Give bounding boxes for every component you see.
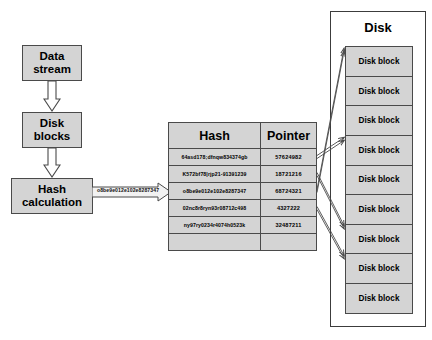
cell-hash: o8be9e012e102e8287347 (169, 183, 261, 200)
table-header-row: Hash Pointer (169, 123, 317, 149)
cell-pointer: 57624982 (261, 149, 317, 166)
hash-value-label: o8be9e012e102e8287347 (95, 187, 161, 193)
table-row-empty (169, 234, 317, 251)
node-data-stream-label: Data stream (23, 50, 81, 77)
disk-block: Disk block (345, 224, 413, 255)
cell-hash: ny97ry0234r4074h0523k (169, 217, 261, 234)
disk-block-label: Disk block (359, 205, 400, 214)
cell-pointer: 18721216 (261, 166, 317, 183)
table-row: ny97ry0234r4074h0523k 32487211 (169, 217, 317, 234)
diagram-canvas: Data stream Disk blocks Hash calculation… (0, 0, 432, 340)
node-disk-blocks-label: Disk blocks (23, 117, 81, 144)
table-row: o8be9e012e102e8287347 68724321 (169, 183, 317, 200)
cell-hash-empty (169, 234, 261, 251)
disk-block-label: Disk block (359, 294, 400, 303)
disk-block-label: Disk block (359, 57, 400, 66)
cell-hash: 64asd178;dfnqw834374gb (169, 149, 261, 166)
disk-block: Disk block (345, 283, 413, 314)
table-row: 64asd178;dfnqw834374gb 57624982 (169, 149, 317, 166)
disk-block: Disk block (345, 165, 413, 196)
disk-block-label: Disk block (359, 146, 400, 155)
disk-block-label: Disk block (359, 235, 400, 244)
cell-hash: 02nc8r8ryn93r08712c498 (169, 200, 261, 217)
disk-block-label: Disk block (359, 116, 400, 125)
node-hash-calculation: Hash calculation (11, 178, 93, 214)
node-data-stream: Data stream (22, 45, 82, 81)
node-disk-blocks: Disk blocks (22, 112, 82, 148)
cell-pointer: 4327222 (261, 200, 317, 217)
disk-block: Disk block (345, 253, 413, 284)
disk-block-stack: Disk block Disk block Disk block Disk bl… (345, 46, 413, 314)
disk-block-label: Disk block (359, 175, 400, 184)
column-header-pointer: Pointer (261, 123, 317, 149)
disk-panel: Disk Disk block Disk block Disk block Di… (330, 11, 426, 327)
disk-block: Disk block (345, 135, 413, 166)
disk-block: Disk block (345, 105, 413, 136)
cell-hash: K572bf78|rjp21-91391239 (169, 166, 261, 183)
column-header-hash: Hash (169, 123, 261, 149)
cell-pointer: 32487211 (261, 217, 317, 234)
disk-block: Disk block (345, 76, 413, 107)
disk-block: Disk block (345, 46, 413, 77)
disk-block: Disk block (345, 194, 413, 225)
disk-block-label: Disk block (359, 264, 400, 273)
cell-pointer-empty (261, 234, 317, 251)
node-hash-calculation-label: Hash calculation (12, 183, 92, 210)
table-row: K572bf78|rjp21-91391239 18721216 (169, 166, 317, 183)
arrow-disk-blocks-to-hash-calculation (43, 148, 61, 178)
disk-panel-title: Disk (331, 20, 425, 35)
arrow-data-stream-to-disk-blocks (43, 81, 61, 112)
cell-pointer: 68724321 (261, 183, 317, 200)
table-row: 02nc8r8ryn93r08712c498 4327222 (169, 200, 317, 217)
disk-block-label: Disk block (359, 87, 400, 96)
hash-pointer-table: Hash Pointer 64asd178;dfnqw834374gb 5762… (168, 122, 317, 251)
